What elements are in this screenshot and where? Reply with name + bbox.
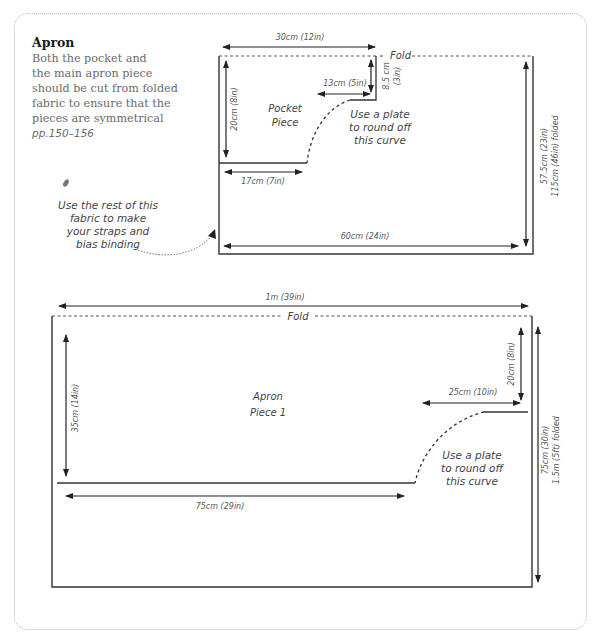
pocket-top-width-label: 30cm (12in) xyxy=(276,33,325,42)
pocket-curve-note1: Use a plate xyxy=(350,108,409,120)
apron-notch-height-label: 20cm (8in) xyxy=(507,342,516,386)
apron-diagram: Fold 1m (39in) 35cm (14in) 75cm (29in) 2… xyxy=(52,293,561,587)
apron-curve-note2: to round off xyxy=(441,462,504,474)
pocket-piece-label2: Piece xyxy=(272,117,299,128)
apron-fold-label: Fold xyxy=(288,311,310,322)
apron-curve-note1: Use a plate xyxy=(442,449,501,461)
pocket-fold-label: Fold xyxy=(390,50,412,61)
straps-note-pointer xyxy=(138,232,214,255)
pocket-diagram: Fold 30cm (12in) 20cm (8in) 13cm (5in) 8… xyxy=(219,33,560,254)
apron-notch-width-label: 25cm (10in) xyxy=(449,388,498,397)
apron-bottom-width-label: 75cm (29in) xyxy=(196,502,245,511)
pocket-notch-height-label1: 8.5 cm xyxy=(382,62,391,90)
pocket-notch-height-label2: (3in) xyxy=(393,67,402,86)
straps-note-line4: bias binding xyxy=(76,238,140,250)
straps-note-line1: Use the rest of this xyxy=(58,199,158,211)
apron-piece-label1: Apron xyxy=(252,391,283,402)
pocket-notch-width-label: 13cm (5in) xyxy=(323,79,367,88)
straps-note-line3: your straps and xyxy=(66,225,150,237)
straps-note-line2: fabric to make xyxy=(70,212,146,224)
apron-piece-label2: Piece 1 xyxy=(250,407,286,418)
apron-top-width-label: 1m (39in) xyxy=(265,293,304,302)
pocket-curve-note3: this curve xyxy=(354,134,406,146)
pocket-curve-dashed xyxy=(307,100,350,163)
apron-fabric-height-label1: 75cm (30in) xyxy=(541,426,550,475)
pencil-mark-icon xyxy=(62,178,70,187)
pocket-curve-note2: to round off xyxy=(349,121,412,133)
pocket-fabric-height-label2: 115cm (46in) folded xyxy=(551,114,560,196)
pocket-fabric-width-label: 60cm (24in) xyxy=(341,232,390,241)
pocket-piece-label1: Pocket xyxy=(268,103,303,114)
straps-note: Use the rest of this fabric to make your… xyxy=(58,178,216,255)
pocket-fabric-height-label1: 57.5cm (23in) xyxy=(540,128,549,184)
pocket-bottom-width-label: 17cm (7in) xyxy=(241,177,285,186)
pocket-left-height-label: 20cm (8in) xyxy=(230,87,239,131)
straps-note-arrowhead-icon xyxy=(208,229,216,239)
pattern-diagram: Fold 30cm (12in) 20cm (8in) 13cm (5in) 8… xyxy=(0,0,596,637)
apron-curve-note3: this curve xyxy=(446,475,498,487)
apron-fabric-height-label2: 1.5m (5ft) folded xyxy=(552,415,561,484)
apron-left-height-label: 35cm (14in) xyxy=(71,384,80,433)
